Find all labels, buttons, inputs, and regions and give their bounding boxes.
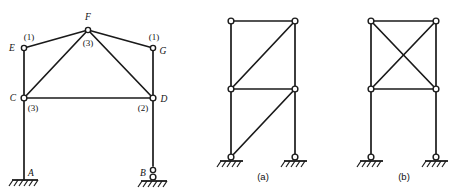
support-a-left-pin (217, 161, 243, 167)
joint-a-mid-left (228, 86, 234, 92)
member-a-diagonal-upper (231, 21, 295, 89)
panel-frame-a: (a) (217, 18, 307, 182)
joint-a-mid-right (292, 86, 298, 92)
support-b-right-pin (422, 161, 448, 167)
joint-b-base-right (433, 154, 439, 160)
joint-B (150, 167, 155, 172)
support-b-left-pin (357, 161, 383, 167)
joint-F (85, 27, 90, 32)
panel-caption-a: (a) (257, 171, 269, 182)
node-label-G: G (160, 46, 167, 56)
member-label-EF: (1) (24, 32, 35, 42)
support-A-fixed (9, 180, 38, 186)
member-label-C3: (3) (28, 103, 39, 113)
member-a-diagonal-lower (231, 89, 295, 157)
node-label-D: D (160, 94, 168, 104)
node-label-F: F (84, 12, 91, 22)
joint-a-top-left (228, 18, 234, 24)
joint-G (150, 45, 155, 50)
node-label-E: E (8, 43, 15, 53)
panel-main-frame: E F G C D A B (1) (1) (3) (3) (2) (8, 12, 167, 187)
panel-frame-b: (b) (357, 18, 448, 182)
joint-b-mid-left (368, 86, 374, 92)
main-frame-members (24, 30, 153, 180)
member-label-D2: (2) (138, 103, 149, 113)
roller-B (150, 174, 156, 180)
panel-caption-b: (b) (398, 171, 410, 182)
main-frame-joints (21, 27, 156, 172)
joint-b-top-left (368, 18, 374, 24)
frame-b-members (371, 21, 436, 157)
joint-b-mid-right (433, 86, 439, 92)
node-label-B: B (140, 168, 146, 178)
support-a-right-pin (281, 161, 307, 167)
structural-frames-figure: E F G C D A B (1) (1) (3) (3) (2) (0, 0, 458, 196)
member-label-F3: (3) (83, 38, 94, 48)
node-label-C: C (10, 93, 17, 103)
joint-C (21, 95, 27, 101)
joint-a-top-right (292, 18, 298, 24)
joint-a-base-left (228, 154, 234, 160)
joint-E (21, 45, 26, 50)
joint-b-top-right (433, 18, 439, 24)
frame-a-members (231, 21, 295, 157)
node-label-A: A (27, 168, 34, 178)
joint-D (150, 95, 156, 101)
joint-a-base-right (292, 154, 298, 160)
member-label-FG: (1) (149, 32, 160, 42)
joint-b-base-left (368, 154, 374, 160)
member-F-D (88, 30, 153, 98)
